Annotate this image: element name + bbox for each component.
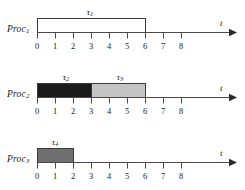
timeline-row-proc1: Proc1 τ1 t 0 1 2 3 4 5 6: [0, 0, 245, 65]
timeline-axis-proc1: [0, 0, 245, 65]
tick-label-7: 7: [157, 171, 169, 181]
tick-label-8: 8: [175, 106, 187, 116]
tick-label-2: 2: [67, 106, 79, 116]
axis-arrowhead-proc1: [229, 29, 237, 36]
tick-label-3: 3: [85, 106, 97, 116]
axis-label-t-proc2: t: [220, 83, 223, 93]
tick-label-8: 8: [175, 41, 187, 51]
timeline-row-proc2: Proc2 τ2 τ3 t 0 1: [0, 65, 245, 130]
tick-label-6: 6: [139, 171, 151, 181]
tick-label-4: 4: [103, 41, 115, 51]
timeline-row-proc3: Proc3 τ4 t 0 1 2 3 4 5 6: [0, 130, 245, 190]
tick-label-0: 0: [31, 171, 43, 181]
tick-label-4: 4: [103, 106, 115, 116]
axis-label-t-proc1: t: [220, 18, 223, 28]
tick-label-5: 5: [121, 106, 133, 116]
tick-label-0: 0: [31, 41, 43, 51]
tick-label-6: 6: [139, 106, 151, 116]
task-bar-tau3: [92, 84, 146, 98]
tick-label-8: 8: [175, 171, 187, 181]
axis-arrowhead-proc2: [229, 94, 237, 101]
task-bar-tau1: [38, 19, 146, 33]
tick-label-4: 4: [103, 171, 115, 181]
tick-label-7: 7: [157, 106, 169, 116]
tick-label-3: 3: [85, 171, 97, 181]
tick-label-5: 5: [121, 41, 133, 51]
timeline-axis-proc3: [0, 130, 245, 190]
tick-label-0: 0: [31, 106, 43, 116]
tick-label-1: 1: [49, 171, 61, 181]
tick-label-7: 7: [157, 41, 169, 51]
tick-label-2: 2: [67, 41, 79, 51]
tick-label-6: 6: [139, 41, 151, 51]
axis-label-t-proc3: t: [220, 148, 223, 158]
axis-arrowhead-proc3: [229, 159, 237, 166]
gantt-timeline-figure: Proc1 τ1 t 0 1 2 3 4 5 6: [0, 0, 245, 190]
task-bar-tau4: [38, 149, 74, 163]
tick-label-3: 3: [85, 41, 97, 51]
tick-label-5: 5: [121, 171, 133, 181]
task-bar-tau2: [38, 84, 92, 98]
tick-label-2: 2: [67, 171, 79, 181]
tick-label-1: 1: [49, 106, 61, 116]
timeline-axis-proc2: [0, 65, 245, 130]
tick-label-1: 1: [49, 41, 61, 51]
